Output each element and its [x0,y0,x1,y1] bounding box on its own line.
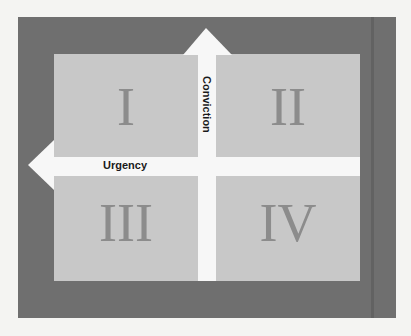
quadrant-II-numeral: II [216,80,360,134]
conviction-axis-label: Conviction [201,76,213,133]
quadrant-IV-numeral: IV [216,196,360,250]
up-arrow-icon [183,28,232,55]
urgency-axis-label: Urgency [103,159,147,171]
left-arrow-icon [28,140,54,190]
arrowheads [0,0,411,336]
quadrant-I-numeral: I [54,80,198,134]
quadrant-III-numeral: III [54,196,198,250]
